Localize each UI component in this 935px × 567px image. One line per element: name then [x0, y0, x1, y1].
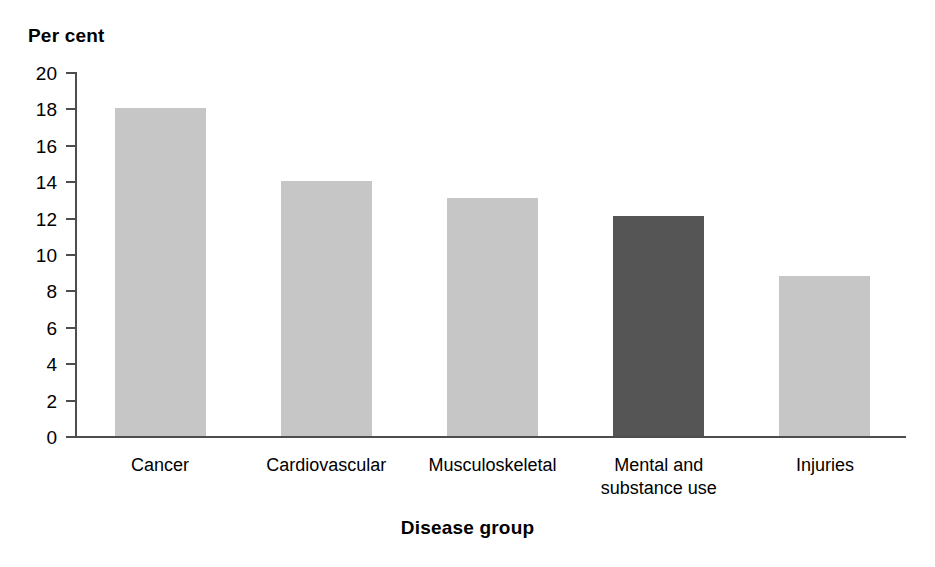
y-tick-label: 12 — [36, 209, 57, 228]
y-tick-14: 14 — [66, 181, 75, 183]
bar-1 — [115, 108, 206, 436]
x-axis-line — [75, 436, 906, 438]
y-tick-label: 2 — [46, 391, 57, 410]
y-tick-2: 2 — [66, 400, 75, 402]
y-tick-label: 6 — [46, 318, 57, 337]
y-tick-12: 12 — [66, 218, 75, 220]
category-label-2: Cardiovascular — [243, 454, 409, 477]
bar-5 — [779, 276, 870, 436]
y-tick-label: 16 — [36, 136, 57, 155]
y-tick-label: 14 — [36, 173, 57, 192]
y-tick-0: 0 — [66, 436, 75, 438]
y-tick-6: 6 — [66, 327, 75, 329]
bar-chart: Per cent 20181614121086420 CancerCardiov… — [0, 0, 935, 567]
y-axis-line — [75, 72, 77, 438]
bar-3 — [447, 198, 538, 436]
x-axis-title: Disease group — [0, 517, 935, 539]
category-label-4: Mental and substance use — [576, 454, 742, 500]
y-tick-10: 10 — [66, 254, 75, 256]
plot-area: 20181614121086420 CancerCardiovascularMu… — [75, 72, 906, 438]
bar-4 — [613, 216, 704, 436]
y-tick-label: 18 — [36, 100, 57, 119]
category-label-1: Cancer — [77, 454, 243, 477]
y-tick-4: 4 — [66, 363, 75, 365]
category-label-5: Injuries — [742, 454, 908, 477]
y-tick-label: 20 — [36, 64, 57, 83]
bar-2 — [281, 181, 372, 436]
y-tick-16: 16 — [66, 145, 75, 147]
y-tick-8: 8 — [66, 290, 75, 292]
y-tick-label: 4 — [46, 355, 57, 374]
y-tick-label: 8 — [46, 282, 57, 301]
y-tick-label: 10 — [36, 246, 57, 265]
y-tick-20: 20 — [66, 72, 75, 74]
y-axis-title: Per cent — [28, 25, 105, 47]
y-tick-18: 18 — [66, 108, 75, 110]
category-label-3: Musculoskeletal — [409, 454, 575, 477]
y-tick-label: 0 — [46, 428, 57, 447]
